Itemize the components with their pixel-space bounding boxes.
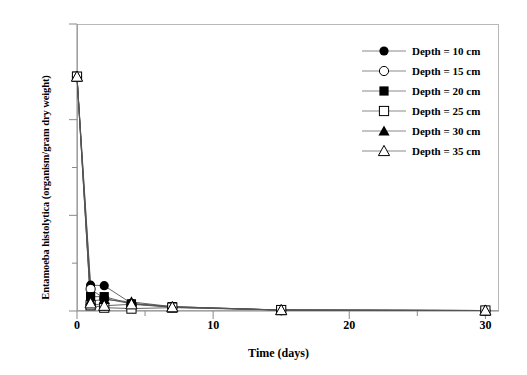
- x-tick-label: 0: [57, 318, 97, 333]
- legend-symbol-shape: [379, 106, 388, 115]
- chart-legend: Depth = 10 cmDepth = 15 cmDepth = 20 cmD…: [362, 42, 480, 159]
- y-axis-title: Entamoeba histolytica (organism/gram dry…: [30, 0, 60, 375]
- legend-symbol: [376, 83, 392, 99]
- legend-marker-square-open-icon: [362, 103, 406, 119]
- legend-symbol-shape: [379, 66, 388, 75]
- legend-entry-2[interactable]: Depth = 20 cm: [362, 82, 480, 99]
- legend-symbol: [376, 143, 392, 159]
- legend-marker-circle-open-icon: [362, 63, 406, 79]
- legend-symbol: [376, 43, 392, 59]
- legend-symbol: [376, 63, 392, 79]
- legend-label: Depth = 15 cm: [406, 65, 480, 77]
- x-tick-label: 20: [329, 318, 369, 333]
- x-axis-title-text: Time (days): [248, 346, 309, 361]
- legend-symbol-shape: [378, 145, 389, 155]
- legend-label: Depth = 20 cm: [406, 85, 480, 97]
- legend-symbol-shape: [379, 86, 388, 95]
- legend-marker-circle-filled-icon: [362, 43, 406, 59]
- legend-entry-4[interactable]: Depth = 30 cm: [362, 122, 480, 139]
- legend-label: Depth = 35 cm: [406, 145, 480, 157]
- legend-entry-5[interactable]: Depth = 35 cm: [362, 142, 480, 159]
- legend-entry-1[interactable]: Depth = 15 cm: [362, 62, 480, 79]
- legend-label: Depth = 10 cm: [406, 45, 480, 57]
- legend-marker-triangle-open-icon: [362, 143, 406, 159]
- x-tick-label: 30: [465, 318, 505, 333]
- chart-figure: Entamoeba histolytica (organism/gram dry…: [0, 0, 527, 375]
- legend-symbol: [376, 103, 392, 119]
- legend-marker-square-filled-icon: [362, 83, 406, 99]
- legend-entry-3[interactable]: Depth = 25 cm: [362, 102, 480, 119]
- legend-symbol-shape: [379, 46, 388, 55]
- legend-label: Depth = 30 cm: [406, 125, 480, 137]
- legend-label: Depth = 25 cm: [406, 105, 480, 117]
- legend-symbol: [376, 123, 392, 139]
- legend-symbol-shape: [378, 125, 389, 135]
- legend-marker-triangle-filled-icon: [362, 123, 406, 139]
- x-axis-title: Time (days): [0, 346, 527, 361]
- data-point-s0-i2: [100, 281, 109, 290]
- x-tick-label: 10: [193, 318, 233, 333]
- legend-entry-0[interactable]: Depth = 10 cm: [362, 42, 480, 59]
